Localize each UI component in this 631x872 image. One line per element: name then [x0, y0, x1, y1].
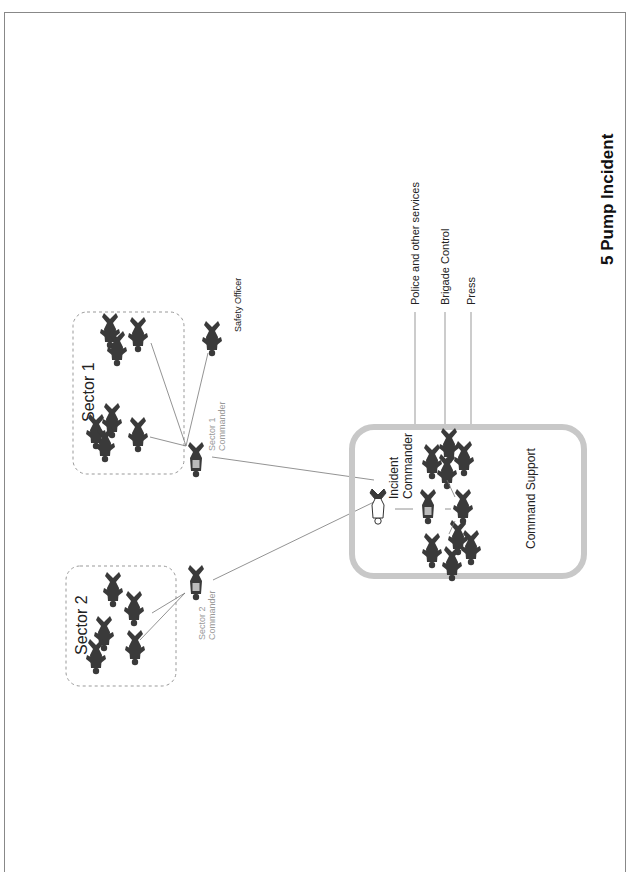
sector-2-commander-label-2: Commander	[207, 590, 217, 640]
diagram-title: 5 Pump Incident	[598, 133, 617, 265]
firefighter-icon	[422, 533, 442, 568]
firefighter-icon	[128, 417, 148, 452]
sector-2-label: Sector 2	[73, 595, 90, 655]
safety-officer-label: Safety Officer	[233, 278, 243, 332]
sector-2-commander-label: Sector 2	[197, 606, 207, 640]
incident-commander-icon	[370, 489, 386, 524]
brigade-control-label: Brigade Control	[439, 229, 451, 305]
incident-commander-label-2: Commander	[401, 433, 415, 499]
firefighter-icon	[125, 630, 145, 665]
firefighter-icon	[103, 572, 123, 607]
sector-1-commander-label: Sector 1	[207, 417, 217, 451]
safety-officer-icon	[202, 321, 222, 356]
press-label: Press	[465, 276, 477, 305]
firefighter-icon	[461, 530, 481, 565]
firefighter-icon	[124, 591, 144, 626]
incident-commander-label: Incident	[387, 456, 401, 499]
command-support-officer-icon	[420, 489, 436, 524]
sector-2-commander-icon	[188, 565, 204, 600]
command-support-label: Command Support	[524, 448, 538, 549]
sector-1-label: Sector 1	[80, 362, 97, 422]
sector-1-commander-icon	[188, 442, 204, 477]
sector-1-commander-label-2: Commander	[217, 401, 227, 451]
firefighter-icon	[128, 317, 148, 352]
police-label: Police and other services	[409, 182, 421, 305]
firefighter-icon	[453, 489, 473, 524]
